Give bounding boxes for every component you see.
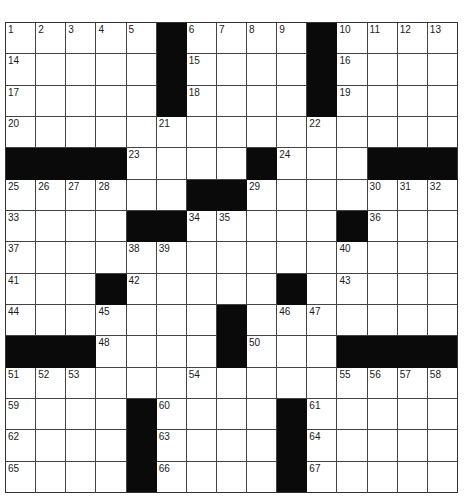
grid-cell[interactable] (187, 430, 217, 461)
grid-cell[interactable]: 41 (6, 274, 36, 305)
grid-cell[interactable] (247, 399, 277, 430)
grid-cell[interactable]: 45 (96, 305, 126, 336)
grid-cell[interactable]: 1 (6, 23, 36, 54)
grid-cell[interactable] (36, 399, 66, 430)
grid-cell[interactable] (428, 399, 458, 430)
grid-cell[interactable]: 53 (66, 368, 96, 399)
grid-cell[interactable]: 18 (187, 86, 217, 117)
grid-cell[interactable]: 67 (307, 462, 337, 493)
grid-cell[interactable] (187, 274, 217, 305)
grid-cell[interactable]: 56 (368, 368, 398, 399)
grid-cell[interactable]: 6 (187, 23, 217, 54)
grid-cell[interactable] (277, 54, 307, 85)
grid-cell[interactable]: 5 (127, 23, 157, 54)
grid-cell[interactable]: 46 (277, 305, 307, 336)
grid-cell[interactable]: 2 (36, 23, 66, 54)
grid-cell[interactable]: 66 (157, 462, 187, 493)
grid-cell[interactable] (96, 86, 126, 117)
grid-cell[interactable] (337, 462, 367, 493)
grid-cell[interactable] (398, 274, 428, 305)
grid-cell[interactable]: 62 (6, 430, 36, 461)
grid-cell[interactable] (36, 274, 66, 305)
grid-cell[interactable] (307, 148, 337, 179)
grid-cell[interactable]: 22 (307, 117, 337, 148)
grid-cell[interactable] (217, 399, 247, 430)
grid-cell[interactable] (36, 54, 66, 85)
grid-cell[interactable] (428, 305, 458, 336)
grid-cell[interactable] (307, 274, 337, 305)
grid-cell[interactable] (277, 180, 307, 211)
grid-cell[interactable] (277, 336, 307, 367)
grid-cell[interactable] (217, 274, 247, 305)
grid-cell[interactable]: 23 (127, 148, 157, 179)
grid-cell[interactable] (66, 54, 96, 85)
grid-cell[interactable] (337, 148, 367, 179)
grid-cell[interactable] (66, 305, 96, 336)
grid-cell[interactable] (277, 86, 307, 117)
grid-cell[interactable]: 9 (277, 23, 307, 54)
grid-cell[interactable] (36, 86, 66, 117)
grid-cell[interactable] (187, 399, 217, 430)
grid-cell[interactable] (157, 368, 187, 399)
grid-cell[interactable] (36, 305, 66, 336)
grid-cell[interactable]: 11 (368, 23, 398, 54)
grid-cell[interactable]: 29 (247, 180, 277, 211)
grid-cell[interactable] (217, 430, 247, 461)
grid-cell[interactable] (36, 462, 66, 493)
grid-cell[interactable] (307, 336, 337, 367)
grid-cell[interactable] (36, 117, 66, 148)
grid-cell[interactable]: 57 (398, 368, 428, 399)
grid-cell[interactable] (187, 336, 217, 367)
grid-cell[interactable]: 47 (307, 305, 337, 336)
grid-cell[interactable] (127, 368, 157, 399)
grid-cell[interactable] (368, 399, 398, 430)
grid-cell[interactable] (36, 211, 66, 242)
grid-cell[interactable]: 61 (307, 399, 337, 430)
grid-cell[interactable] (217, 462, 247, 493)
grid-cell[interactable] (127, 305, 157, 336)
grid-cell[interactable] (398, 399, 428, 430)
grid-cell[interactable] (187, 305, 217, 336)
grid-cell[interactable] (368, 430, 398, 461)
grid-cell[interactable] (66, 86, 96, 117)
grid-cell[interactable] (247, 274, 277, 305)
grid-cell[interactable]: 38 (127, 242, 157, 273)
grid-cell[interactable] (368, 462, 398, 493)
grid-cell[interactable] (247, 242, 277, 273)
grid-cell[interactable] (66, 117, 96, 148)
grid-cell[interactable] (247, 430, 277, 461)
grid-cell[interactable]: 42 (127, 274, 157, 305)
grid-cell[interactable]: 27 (66, 180, 96, 211)
grid-cell[interactable]: 33 (6, 211, 36, 242)
grid-cell[interactable] (157, 148, 187, 179)
grid-cell[interactable] (428, 117, 458, 148)
grid-cell[interactable] (66, 274, 96, 305)
grid-cell[interactable]: 65 (6, 462, 36, 493)
grid-cell[interactable] (428, 274, 458, 305)
grid-cell[interactable] (217, 148, 247, 179)
grid-cell[interactable]: 25 (6, 180, 36, 211)
grid-cell[interactable] (307, 211, 337, 242)
grid-cell[interactable]: 44 (6, 305, 36, 336)
grid-cell[interactable] (428, 86, 458, 117)
grid-cell[interactable] (66, 242, 96, 273)
grid-cell[interactable] (96, 117, 126, 148)
grid-cell[interactable] (217, 117, 247, 148)
grid-cell[interactable]: 17 (6, 86, 36, 117)
grid-cell[interactable] (127, 117, 157, 148)
grid-cell[interactable] (337, 399, 367, 430)
grid-cell[interactable] (96, 368, 126, 399)
grid-cell[interactable]: 58 (428, 368, 458, 399)
grid-cell[interactable]: 60 (157, 399, 187, 430)
grid-cell[interactable] (187, 148, 217, 179)
grid-cell[interactable] (66, 430, 96, 461)
grid-cell[interactable] (96, 242, 126, 273)
grid-cell[interactable] (217, 242, 247, 273)
grid-cell[interactable] (398, 242, 428, 273)
grid-cell[interactable] (157, 305, 187, 336)
grid-cell[interactable]: 15 (187, 54, 217, 85)
grid-cell[interactable] (428, 430, 458, 461)
grid-cell[interactable] (127, 54, 157, 85)
grid-cell[interactable] (187, 117, 217, 148)
grid-cell[interactable]: 55 (337, 368, 367, 399)
